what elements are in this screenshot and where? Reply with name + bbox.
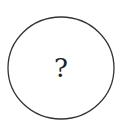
diagram-canvas: ? <box>0 0 129 123</box>
question-mark-label: ? <box>54 53 68 83</box>
diagram-svg: ? <box>0 0 129 123</box>
